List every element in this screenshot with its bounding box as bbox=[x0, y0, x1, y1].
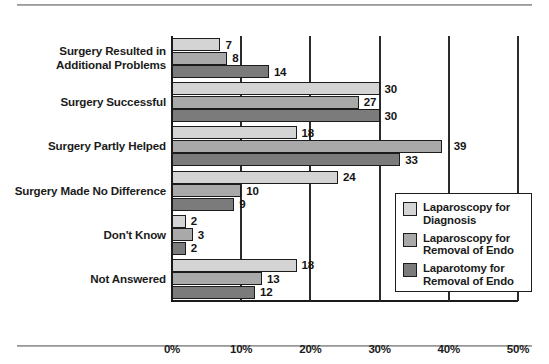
bar-value-label: 14 bbox=[274, 65, 286, 77]
x-tick-label: 10% bbox=[230, 343, 252, 355]
bar-value-label: 27 bbox=[364, 96, 376, 108]
bar-row: 33 bbox=[172, 153, 518, 166]
bar-value-label: 2 bbox=[191, 242, 197, 254]
x-tick-label: 20% bbox=[299, 343, 321, 355]
bar-value-label: 8 bbox=[232, 52, 238, 64]
category-label-line: Surgery Resulted in bbox=[0, 44, 166, 58]
bar-row: 14 bbox=[172, 65, 518, 78]
category-label-line: Additional Problems bbox=[0, 58, 166, 72]
bar-group: 7814 bbox=[172, 36, 518, 80]
x-tick-label: 30% bbox=[368, 343, 390, 355]
legend-label-line: Removal of Endo bbox=[423, 244, 514, 257]
top-divider-rule bbox=[17, 4, 532, 6]
bar[interactable] bbox=[172, 126, 297, 139]
bar[interactable] bbox=[172, 259, 297, 272]
legend-label-line: Removal of Endo bbox=[423, 275, 514, 288]
x-tick-label: 50% bbox=[507, 343, 529, 355]
bar[interactable] bbox=[172, 286, 255, 299]
bar[interactable] bbox=[172, 82, 380, 95]
category-label-line: Surgery Partly Helped bbox=[0, 139, 166, 153]
category-label-line: Surgery Successful bbox=[0, 95, 166, 109]
bar-value-label: 3 bbox=[198, 228, 204, 240]
legend-label: Laparoscopy forDiagnosis bbox=[423, 201, 510, 227]
legend-label: Laparotomy forRemoval of Endo bbox=[423, 262, 514, 288]
category-label: Surgery Resulted inAdditional Problems bbox=[0, 44, 166, 71]
bar[interactable] bbox=[172, 171, 338, 184]
chart-figure: 0%10%20%30%40%50% Surgery Resulted inAdd… bbox=[0, 0, 549, 364]
category-label-line: Surgery Made No Difference bbox=[0, 184, 166, 198]
category-label: Don't Know bbox=[0, 228, 166, 242]
bar-value-label: 33 bbox=[405, 154, 417, 166]
bar[interactable] bbox=[172, 109, 380, 122]
category-label-line: Not Answered bbox=[0, 272, 166, 286]
bar-value-label: 30 bbox=[385, 109, 397, 121]
bar[interactable] bbox=[172, 272, 262, 285]
legend-label: Laparoscopy forRemoval of Endo bbox=[423, 232, 514, 258]
legend-swatch-icon bbox=[403, 263, 417, 277]
bar[interactable] bbox=[172, 140, 442, 153]
bar-row: 27 bbox=[172, 96, 518, 109]
category-label: Surgery Made No Difference bbox=[0, 184, 166, 198]
bar-row: 24 bbox=[172, 171, 518, 184]
legend-label-line: Diagnosis bbox=[423, 214, 510, 227]
bar[interactable] bbox=[172, 242, 186, 255]
bar[interactable] bbox=[172, 153, 400, 166]
bar-value-label: 13 bbox=[267, 273, 279, 285]
bar-row: 18 bbox=[172, 126, 518, 139]
bar-row: 7 bbox=[172, 38, 518, 51]
x-tick-label: 0% bbox=[164, 343, 180, 355]
legend-item[interactable]: Laparotomy forRemoval of Endo bbox=[403, 262, 525, 288]
bar-value-label: 9 bbox=[239, 198, 245, 210]
bar[interactable] bbox=[172, 215, 186, 228]
bar-value-label: 30 bbox=[385, 82, 397, 94]
bar-value-label: 12 bbox=[260, 286, 272, 298]
bar[interactable] bbox=[172, 96, 359, 109]
bar-group: 302730 bbox=[172, 80, 518, 124]
x-tick-label: 40% bbox=[438, 343, 460, 355]
chart-legend: Laparoscopy forDiagnosisLaparoscopy forR… bbox=[395, 193, 532, 292]
bar-row: 8 bbox=[172, 52, 518, 65]
bar[interactable] bbox=[172, 38, 220, 51]
bar-value-label: 18 bbox=[302, 259, 314, 271]
bar[interactable] bbox=[172, 52, 227, 65]
bar[interactable] bbox=[172, 198, 234, 211]
category-label: Surgery Partly Helped bbox=[0, 139, 166, 153]
bar-value-label: 7 bbox=[225, 38, 231, 50]
category-label: Surgery Successful bbox=[0, 95, 166, 109]
legend-label-line: Laparoscopy for bbox=[423, 201, 510, 214]
bar-row: 39 bbox=[172, 140, 518, 153]
category-label-line: Don't Know bbox=[0, 228, 166, 242]
bar[interactable] bbox=[172, 184, 241, 197]
bar-value-label: 24 bbox=[343, 171, 355, 183]
bar-row: 30 bbox=[172, 109, 518, 122]
legend-item[interactable]: Laparoscopy forDiagnosis bbox=[403, 201, 525, 227]
legend-label-line: Laparoscopy for bbox=[423, 232, 514, 245]
bar-value-label: 18 bbox=[302, 127, 314, 139]
legend-label-line: Laparotomy for bbox=[423, 262, 514, 275]
bar[interactable] bbox=[172, 65, 269, 78]
bar-group: 183933 bbox=[172, 124, 518, 168]
legend-swatch-icon bbox=[403, 202, 417, 216]
bar-value-label: 10 bbox=[246, 184, 258, 196]
bar-row: 30 bbox=[172, 82, 518, 95]
legend-item[interactable]: Laparoscopy forRemoval of Endo bbox=[403, 232, 525, 258]
bar-value-label: 2 bbox=[191, 215, 197, 227]
bar-value-label: 39 bbox=[454, 140, 466, 152]
bar[interactable] bbox=[172, 228, 193, 241]
legend-swatch-icon bbox=[403, 233, 417, 247]
category-label: Not Answered bbox=[0, 272, 166, 286]
